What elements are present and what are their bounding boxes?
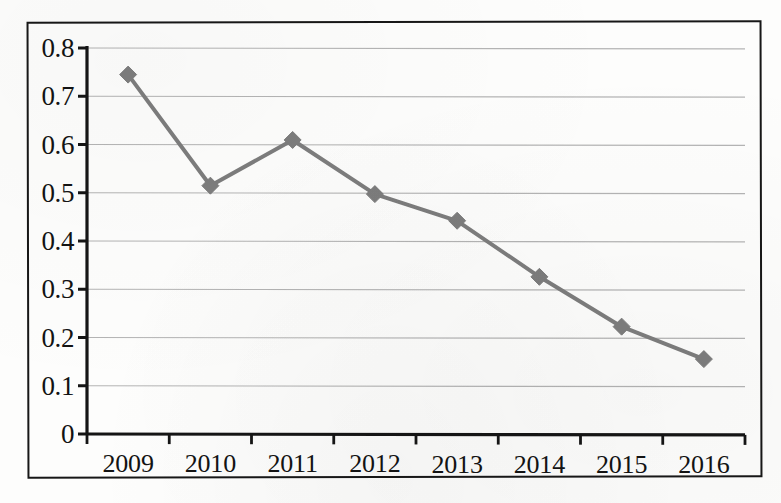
- gridline: [87, 145, 745, 146]
- data-point-marker-2016: [695, 351, 712, 368]
- gridline: [87, 193, 745, 194]
- x-tick-label-2015: 2015: [596, 452, 647, 478]
- x-tick-label-2009: 2009: [103, 451, 154, 477]
- y-tick-label-0_3: 0.3: [41, 276, 74, 303]
- y-tick-label-0_4: 0.4: [41, 228, 74, 255]
- gridline: [87, 96, 745, 97]
- x-tick-label-2012: 2012: [349, 451, 400, 477]
- gridline: [87, 48, 745, 49]
- gridline: [87, 241, 745, 242]
- y-tick-label-0_1: 0.1: [41, 372, 74, 399]
- series-line: [128, 75, 704, 360]
- y-tick-label-0_6: 0.6: [41, 131, 74, 158]
- y-tick-label-0: 0: [61, 421, 74, 448]
- x-tick-label-2011: 2011: [268, 451, 318, 477]
- y-axis: [78, 46, 87, 435]
- data-point-markers: [120, 66, 713, 367]
- line-chart-canvas: [0, 0, 781, 503]
- x-tick-label-2016: 2016: [678, 452, 729, 478]
- gridline: [87, 386, 745, 387]
- y-tick-label-0_7: 0.7: [41, 83, 74, 110]
- y-tick-label-0_2: 0.2: [41, 324, 74, 351]
- y-tick-label-0_8: 0.8: [41, 35, 74, 62]
- x-tick-label-2013: 2013: [432, 452, 483, 478]
- x-tick-label-2014: 2014: [514, 452, 565, 478]
- x-tick-label-2010: 2010: [185, 451, 236, 477]
- gridline: [87, 289, 745, 290]
- data-point-marker-2015: [613, 318, 630, 335]
- y-tick-label-0_5: 0.5: [41, 179, 74, 206]
- chart-page: 00.10.20.30.40.50.60.70.8 20092010201120…: [0, 0, 781, 503]
- x-axis: [86, 434, 745, 445]
- data-series-line: [128, 75, 704, 360]
